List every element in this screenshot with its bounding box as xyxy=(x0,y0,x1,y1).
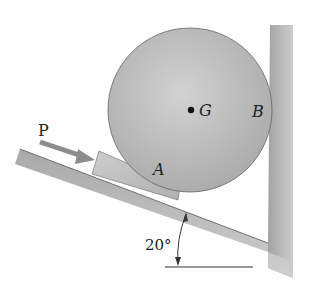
cylinder xyxy=(108,28,272,192)
label-p: P xyxy=(38,121,49,140)
vertical-wall xyxy=(268,25,293,278)
label-a: A xyxy=(151,160,165,179)
label-g: G xyxy=(199,101,212,120)
statics-diagram: P G B A 20° xyxy=(0,0,313,289)
center-point-g xyxy=(188,107,194,113)
label-angle: 20° xyxy=(145,236,172,254)
label-b: B xyxy=(251,102,264,121)
